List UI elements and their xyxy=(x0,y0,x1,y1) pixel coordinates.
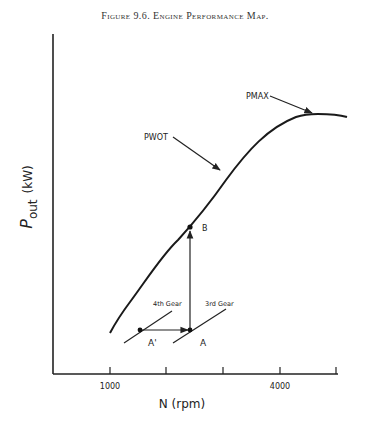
x-tick-label: 4000 xyxy=(270,382,290,391)
point-a xyxy=(188,328,193,333)
point-b-label: B xyxy=(202,224,208,233)
pmax-arrow xyxy=(270,96,312,113)
svg-text:Pout(kW): Pout(kW) xyxy=(17,165,40,229)
point-a-label: A xyxy=(200,338,207,348)
point-a-prime-label: A' xyxy=(148,338,157,348)
y-label-sub: out xyxy=(26,199,40,219)
pwot-arrow xyxy=(173,137,220,170)
gear-3rd-label: 3rd Gear xyxy=(205,300,234,308)
engine-performance-chart: 10004000 PMAXPWOTBAA'4th Gear3rd Gear N … xyxy=(0,0,370,426)
point-a-prime xyxy=(138,328,143,333)
pmax-label: PMAX xyxy=(246,92,269,101)
gear-4th-label: 4th Gear xyxy=(153,300,182,308)
y-label-unit: (kW) xyxy=(21,165,35,193)
point-b xyxy=(187,224,192,229)
y-axis-label: Pout(kW) xyxy=(17,165,40,229)
y-label-main: P xyxy=(17,219,36,229)
pwot-label: PWOT xyxy=(144,133,168,142)
x-axis-label: N (rpm) xyxy=(159,397,205,411)
x-tick-label: 1000 xyxy=(100,382,120,391)
axes xyxy=(53,34,338,374)
